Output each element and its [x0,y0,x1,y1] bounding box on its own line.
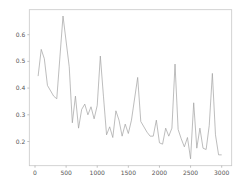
y-axis: 0.20.30.40.50.6 [16,31,30,145]
line-chart: 050010001500200025003000 0.20.30.40.50.6 [0,0,247,189]
x-tick-label: 2000 [152,169,167,176]
x-tick-label: 1500 [121,169,136,176]
data-line [38,16,222,159]
x-tick-label: 3000 [214,169,229,176]
x-tick-label: 500 [60,169,72,176]
y-tick-label: 0.2 [16,138,26,145]
y-tick-label: 0.4 [16,84,26,91]
x-tick-label: 2500 [183,169,198,176]
y-tick-label: 0.5 [16,57,26,64]
y-tick-label: 0.6 [16,31,26,38]
x-tick-label: 1000 [90,169,105,176]
x-tick-label: 0 [33,169,37,176]
plot-frame [29,10,231,166]
x-axis: 050010001500200025003000 [33,166,229,176]
y-tick-label: 0.3 [16,111,26,118]
